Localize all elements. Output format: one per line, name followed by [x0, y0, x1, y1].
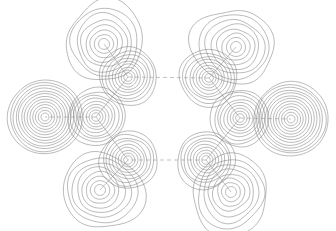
- density-site-substituent-4: [193, 153, 266, 231]
- density-site-substituent-5: [63, 152, 146, 227]
- contour-line: [265, 93, 317, 146]
- contour-line: [86, 25, 122, 63]
- density-sites-layer: [7, 0, 328, 231]
- contour-line: [222, 33, 250, 60]
- density-site-ring-atom-2: [179, 49, 237, 107]
- contour-line: [208, 169, 253, 217]
- contour-line: [211, 24, 258, 70]
- contour-figure: [0, 0, 336, 231]
- contour-line: [99, 39, 110, 50]
- contour-line: [11, 83, 80, 152]
- density-site-substituent-6: [7, 80, 82, 154]
- bond-bond-sub-3: [240, 118, 291, 119]
- contour-line: [63, 152, 146, 227]
- contour-line: [221, 183, 240, 202]
- density-site-substituent-3: [254, 81, 328, 156]
- contour-line: [231, 42, 242, 53]
- contour-plot-canvas: [0, 0, 336, 231]
- contour-line: [287, 115, 295, 123]
- density-site-substituent-2: [189, 11, 275, 84]
- contour-line: [22, 93, 68, 140]
- contour-line: [199, 160, 265, 229]
- bond-bond-sub-1: [104, 44, 128, 77]
- contour-line: [189, 11, 275, 84]
- contour-line: [77, 12, 131, 72]
